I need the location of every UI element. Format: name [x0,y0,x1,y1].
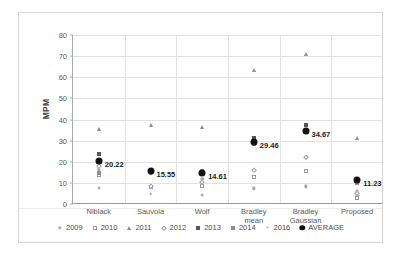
category-separator [125,35,126,203]
data-point-2014 [252,142,256,146]
average-value-label: 14.61 [208,172,227,181]
average-value-label: 15.55 [157,170,176,179]
legend-marker-icon [161,225,167,231]
data-point-2013 [97,152,101,156]
data-point-2011 [200,125,204,129]
data-point-2013 [149,170,153,174]
legend-label: AVERAGE [308,223,344,232]
y-axis-title: MPM [41,99,51,120]
data-point-2010 [304,169,308,173]
chart-frame: MPM 01020304050607080 NiblackSauvolaWolf… [18,12,383,243]
gridline [73,204,382,205]
data-point-average [302,127,309,134]
legend-marker-glyph [231,226,235,230]
legend-label: 2009 [66,223,83,232]
y-axis-tick-label: 50 [59,94,67,103]
y-axis-tick-label: 30 [59,136,67,145]
y-axis-tick-mark [70,56,73,57]
data-point-2012 [148,183,153,188]
data-point-2010 [149,185,153,189]
category-separator [228,35,229,203]
data-point-2016 [149,193,152,196]
category-separator [280,35,281,203]
y-axis-tick-mark [70,98,73,99]
legend-marker-icon [265,225,271,231]
average-value-label: 34.67 [312,129,331,138]
y-axis-tick-mark [70,161,73,162]
legend-marker-glyph [93,226,97,230]
legend-marker-icon [126,225,132,231]
legend-marker-glyph [196,226,200,230]
legend-marker-icon [299,225,305,231]
legend-marker-icon [57,225,63,231]
data-point-2012 [96,163,101,168]
data-point-2009 [97,167,100,170]
y-axis-tick-label: 10 [59,178,67,187]
average-value-label: 29.46 [260,140,279,149]
data-point-average [199,170,206,177]
legend-item-2016[interactable]: 2016 [265,223,291,232]
category-separator [176,35,177,203]
legend-item-2009[interactable]: 2009 [57,223,83,232]
legend-item-2010[interactable]: 2010 [92,223,118,232]
y-axis-tick-mark [70,204,73,205]
data-point-2011 [355,136,359,140]
data-point-2013 [355,177,359,181]
data-point-2009 [304,185,307,188]
data-point-2014 [97,171,101,175]
data-point-2012 [303,154,308,159]
data-point-average [250,138,257,145]
chart-legend: 2009201020112012201320142016AVERAGE [19,223,382,232]
data-point-2016 [356,190,359,193]
average-value-label: 11.23 [363,179,381,188]
category-separator [331,35,332,203]
data-point-2013 [304,123,308,127]
legend-marker-icon [230,225,236,231]
data-point-2014 [304,128,308,132]
legend-marker-glyph [58,226,61,229]
legend-item-average[interactable]: AVERAGE [299,223,344,232]
legend-label: 2014 [239,223,256,232]
legend-label: 2010 [101,223,118,232]
data-point-2009 [252,187,255,190]
data-point-2011 [252,68,256,72]
data-point-2011 [149,123,153,127]
data-point-2010 [252,175,256,179]
data-point-2012 [355,191,360,196]
y-axis-tick-mark [70,119,73,120]
data-point-2016 [97,187,100,190]
data-point-2010 [97,173,101,177]
legend-label: 2012 [170,223,187,232]
legend-label: 2011 [135,223,151,232]
legend-divider [19,208,382,209]
legend-marker-glyph [266,226,269,229]
legend-item-2013[interactable]: 2013 [195,223,221,232]
y-axis-tick-label: 60 [59,73,67,82]
average-value-label: 20.22 [105,160,124,169]
legend-marker-glyph [127,226,131,230]
y-axis-tick-mark [70,35,73,36]
data-point-2014 [149,168,153,172]
data-point-2016 [304,130,307,133]
legend-item-2012[interactable]: 2012 [161,223,187,232]
legend-marker-icon [92,225,98,231]
data-point-2014 [200,169,204,173]
data-point-2013 [200,172,204,176]
legend-marker-icon [195,225,201,231]
y-axis-tick-mark [70,182,73,183]
y-axis-tick-mark [70,77,73,78]
data-point-2010 [355,196,359,200]
legend-label: 2013 [204,223,221,232]
y-axis-tick-mark [70,140,73,141]
y-axis-tick-label: 20 [59,157,67,166]
data-point-2013 [252,136,256,140]
data-point-2009 [355,193,358,196]
legend-label: 2016 [274,223,291,232]
y-axis-tick-label: 80 [59,31,67,40]
legend-item-2014[interactable]: 2014 [230,223,256,232]
data-point-average [147,168,154,175]
legend-item-2011[interactable]: 2011 [126,223,151,232]
plot-area: 01020304050607080 NiblackSauvolaWolfBrad… [72,35,382,204]
data-point-2016 [201,194,204,197]
data-point-2012 [251,167,256,172]
